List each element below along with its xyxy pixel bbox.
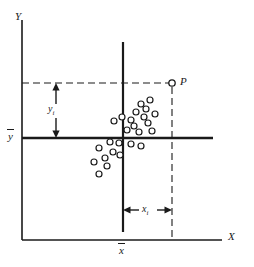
y-deviation-label-sub: i — [52, 109, 54, 117]
point-p-marker — [169, 80, 175, 86]
scatter-point — [111, 118, 117, 124]
scatter-point — [91, 159, 97, 165]
scatter-point — [152, 111, 158, 117]
y-axis-label: Y — [15, 11, 21, 22]
y-deviation-label: yi — [48, 104, 54, 117]
x-mean-label: x — [119, 245, 124, 256]
scatter-point — [104, 163, 110, 169]
scatter-point — [143, 106, 149, 112]
scatter-point — [131, 123, 137, 129]
scatter-point — [149, 128, 155, 134]
scatter-point — [116, 140, 122, 146]
x-mean-label-text: x — [119, 245, 124, 256]
scatter-point — [124, 127, 130, 133]
scatter-point — [117, 152, 123, 158]
mean-lines-group — [22, 42, 213, 232]
plot-canvas — [0, 0, 254, 267]
scatter-point — [96, 171, 102, 177]
scatter-point — [107, 139, 113, 145]
scatter-point — [138, 143, 144, 149]
scatter-point — [147, 97, 153, 103]
scatter-point — [145, 120, 151, 126]
scatter-point — [128, 117, 134, 123]
scatter-point — [119, 114, 125, 120]
scatter-point — [136, 129, 142, 135]
scatter-point — [133, 109, 139, 115]
scatter-point — [128, 141, 134, 147]
scatter-point — [141, 114, 147, 120]
x-deviation-label-sub: i — [146, 209, 148, 217]
y-mean-label-text: y — [8, 131, 13, 142]
x-deviation-label: xi — [142, 204, 148, 217]
scatter-point — [110, 149, 116, 155]
y-mean-label: y — [8, 131, 13, 142]
scatter-point — [102, 155, 108, 161]
scatter-point — [138, 101, 144, 107]
scatter-diagram-figure: Y X y x P yi xi — [0, 0, 254, 267]
scatter-point — [96, 145, 102, 151]
x-axis-label: X — [228, 231, 235, 242]
point-p-label: P — [180, 76, 187, 87]
